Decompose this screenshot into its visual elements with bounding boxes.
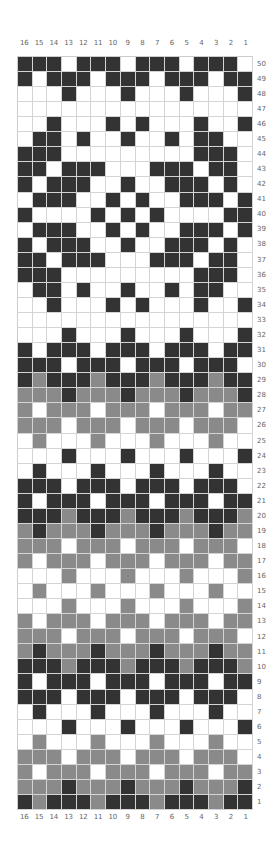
grid-cell (238, 659, 253, 674)
grid-cell (33, 690, 48, 705)
column-labels-top: 16151413121110987654321 (17, 39, 253, 47)
grid-cell (224, 464, 239, 479)
grid-cell (106, 509, 121, 524)
grid-cell (180, 584, 195, 599)
grid-cell (209, 644, 224, 659)
grid-cell (47, 449, 62, 464)
grid-cell (180, 193, 195, 208)
grid-cell (62, 554, 77, 569)
grid-cell (106, 614, 121, 629)
grid-cell (62, 253, 77, 268)
grid-cell (165, 554, 180, 569)
grid-cell (224, 57, 239, 72)
grid-cell (238, 403, 253, 418)
grid-cell (150, 193, 165, 208)
grid-cell (224, 102, 239, 117)
grid-cell (47, 765, 62, 780)
grid-cell (106, 57, 121, 72)
grid-cell (209, 87, 224, 102)
grid-cell (47, 524, 62, 539)
grid-cell (106, 524, 121, 539)
grid-cell (18, 795, 33, 810)
grid-cell (47, 584, 62, 599)
grid-cell (18, 599, 33, 614)
grid-cell (62, 644, 77, 659)
grid-cell (106, 87, 121, 102)
grid-cell (150, 735, 165, 750)
grid-cell (33, 238, 48, 253)
grid-cell (136, 223, 151, 238)
grid-cell (165, 479, 180, 494)
grid-cell (194, 343, 209, 358)
grid-cell (136, 162, 151, 177)
grid-cell (165, 117, 180, 132)
grid-cell (77, 765, 92, 780)
grid-cell (238, 765, 253, 780)
grid-cell (224, 87, 239, 102)
column-label: 5 (179, 813, 194, 821)
grid-cell (136, 795, 151, 810)
grid-cell (136, 87, 151, 102)
row-label: 37 (255, 252, 275, 267)
grid-cell (165, 388, 180, 403)
grid-cell (62, 403, 77, 418)
column-labels-bottom: 16151413121110987654321 (17, 813, 253, 821)
grid-cell (47, 87, 62, 102)
column-label: 9 (120, 39, 135, 47)
grid-cell (165, 57, 180, 72)
grid-cell (77, 705, 92, 720)
grid-cell (121, 208, 136, 223)
column-label: 15 (32, 39, 47, 47)
grid-cell (18, 403, 33, 418)
grid-cell (180, 57, 195, 72)
grid-cell (106, 358, 121, 373)
grid-cell (33, 177, 48, 192)
grid-cell (194, 388, 209, 403)
grid-cell (224, 373, 239, 388)
grid-cell (91, 735, 106, 750)
row-label: 42 (255, 177, 275, 192)
grid-cell (238, 72, 253, 87)
row-label: 33 (255, 312, 275, 327)
grid-cell (106, 584, 121, 599)
grid-cell (62, 102, 77, 117)
grid-cell (194, 659, 209, 674)
grid-cell (165, 283, 180, 298)
column-label: 8 (135, 813, 150, 821)
row-label: 39 (255, 222, 275, 237)
grid-cell (18, 720, 33, 735)
grid-cell (62, 72, 77, 87)
grid-cell (77, 449, 92, 464)
grid-cell (238, 720, 253, 735)
grid-cell (180, 117, 195, 132)
grid-cell (106, 313, 121, 328)
grid-cell (136, 132, 151, 147)
grid-cell (209, 208, 224, 223)
grid-cell (194, 539, 209, 554)
row-label: 48 (255, 86, 275, 101)
grid-cell (150, 674, 165, 689)
grid-cell (194, 177, 209, 192)
grid-cell (150, 584, 165, 599)
grid-cell (165, 358, 180, 373)
grid-cell (121, 795, 136, 810)
grid-cell (62, 162, 77, 177)
grid-cell (136, 117, 151, 132)
grid-cell (150, 403, 165, 418)
row-label: 17 (255, 554, 275, 569)
grid-cell (180, 644, 195, 659)
grid-cell (18, 102, 33, 117)
grid-cell (106, 102, 121, 117)
grid-cell (194, 509, 209, 524)
grid-cell (121, 238, 136, 253)
grid-cell (209, 132, 224, 147)
row-label: 16 (255, 569, 275, 584)
grid-cell (150, 57, 165, 72)
grid-cell (106, 132, 121, 147)
grid-cell (91, 795, 106, 810)
column-label: 2 (224, 39, 239, 47)
grid-cell (165, 509, 180, 524)
grid-cell (224, 253, 239, 268)
grid-cell (180, 509, 195, 524)
grid-cell (150, 117, 165, 132)
